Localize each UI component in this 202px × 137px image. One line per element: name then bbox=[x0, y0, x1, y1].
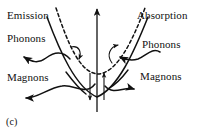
figure-caption: (c) bbox=[6, 116, 17, 128]
label-absorption: Absorption bbox=[137, 9, 188, 21]
label-phonons-left: Phonons bbox=[7, 32, 46, 44]
label-emission: Emission bbox=[7, 9, 49, 21]
label-phonons-right: Phonons bbox=[142, 38, 181, 50]
label-magnons-right: Magnons bbox=[140, 70, 182, 82]
label-magnons-left: Magnons bbox=[7, 71, 49, 83]
